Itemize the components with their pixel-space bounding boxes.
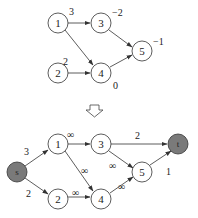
node-weight: 2 (63, 56, 68, 67)
node-weight: 3 (69, 6, 74, 17)
bottom-graph: 3 2 ∞ ∞ ∞ ∞ ∞ 2 1 s 1 2 3 4 5 (7, 129, 188, 209)
capacity-5-t: 1 (166, 166, 171, 177)
node-label: 4 (98, 67, 104, 79)
node-label: 4 (98, 193, 104, 205)
node-label: 1 (55, 17, 61, 29)
top-node-1: 1 3 (48, 6, 74, 33)
node-4: 4 (91, 189, 111, 209)
capacity-3-t: 2 (135, 130, 140, 141)
capacity-2-4: ∞ (72, 187, 79, 198)
top-edge-3-5 (109, 30, 132, 47)
node-weight: −2 (112, 7, 123, 18)
diagram-canvas: 1 3 2 2 3 −2 4 0 5 −1 (0, 0, 198, 218)
down-arrow-icon (86, 105, 103, 117)
node-1: 1 (48, 134, 68, 154)
source-node-s: s (7, 162, 27, 182)
top-node-5: 5 −1 (132, 36, 164, 61)
node-label: 2 (55, 193, 61, 205)
capacity-s-2: 2 (26, 188, 31, 199)
node-label: 2 (55, 67, 61, 79)
capacity-s-1: 3 (24, 146, 29, 157)
node-label: 1 (55, 138, 61, 150)
node-5: 5 (132, 162, 152, 182)
top-node-2: 2 2 (48, 56, 68, 83)
node-weight: −1 (153, 36, 164, 47)
top-node-3: 3 −2 (91, 7, 123, 33)
node-label: 3 (98, 17, 104, 29)
node-2: 2 (48, 189, 68, 209)
top-edge-1-4 (65, 30, 93, 65)
sink-node-t: t (168, 134, 188, 154)
node-weight: 0 (113, 80, 118, 91)
capacity-4-5: ∞ (118, 181, 125, 192)
edge-1-4 (65, 151, 93, 191)
edge-5-t (150, 151, 171, 165)
top-node-4: 4 0 (91, 63, 118, 91)
node-3: 3 (91, 134, 111, 154)
top-edge-4-5 (110, 55, 132, 67)
capacity-1-4: ∞ (81, 165, 88, 176)
node-label: 3 (98, 138, 104, 150)
node-label: 5 (139, 166, 145, 178)
capacity-3-5: ∞ (109, 160, 116, 171)
top-graph: 1 3 2 2 3 −2 4 0 5 −1 (48, 6, 164, 91)
node-label: s (15, 167, 19, 177)
node-label: 5 (139, 45, 145, 57)
capacity-1-3: ∞ (67, 129, 74, 140)
